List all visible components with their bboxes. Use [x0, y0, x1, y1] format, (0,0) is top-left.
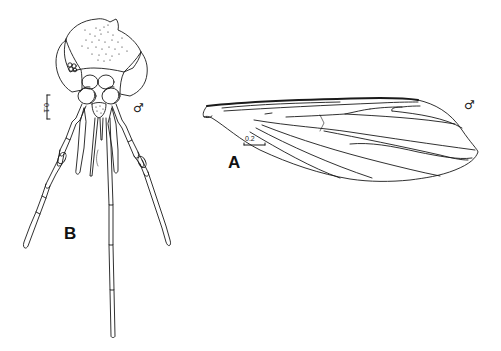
clypeus: [92, 103, 106, 119]
ocellus: [69, 67, 73, 71]
vein-rs: [286, 109, 370, 117]
head-scale-value: 0.1: [43, 103, 50, 113]
labrum-stylet: [100, 118, 103, 140]
illustration-canvas: [0, 0, 501, 351]
clypeus-stipple: [95, 105, 103, 113]
panel-label-b: B: [64, 225, 76, 242]
vein-m1: [324, 131, 468, 160]
wing-scale-value: 0.2: [245, 135, 255, 142]
figure: A B 0.2 0.1 ♂ ♂: [0, 0, 501, 351]
frons-stipple: [81, 24, 127, 61]
right-antenna: [112, 104, 171, 246]
inner-stylet-fine: [97, 150, 99, 166]
head-vertex: [64, 19, 141, 72]
vein-r2-loop: [392, 107, 402, 111]
vein-r1: [224, 102, 418, 111]
wing-scale-bar: [244, 143, 265, 145]
wing-costa: [207, 98, 418, 106]
vein-an: [250, 132, 340, 178]
head-drawing: [23, 19, 170, 338]
vein-fragment: [265, 113, 272, 114]
labrum-stylet: [90, 118, 98, 176]
vein-m2: [350, 143, 472, 158]
left-compound-eye: [56, 40, 82, 92]
left-antenna: [23, 104, 86, 248]
vein-m: [254, 120, 475, 150]
wing-male-symbol: ♂: [464, 99, 475, 111]
proboscis: [106, 118, 115, 338]
head-male-symbol: ♂: [133, 102, 144, 114]
panel-label-a: A: [228, 154, 240, 171]
vein-r4: [392, 111, 462, 128]
right-compound-eye: [120, 52, 147, 96]
